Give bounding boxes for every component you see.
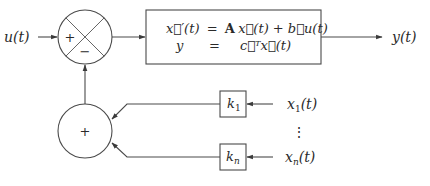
gain-block-kn: kn xyxy=(220,144,246,170)
plant-block: x⃗′(t) = A x⃗(t) + b⃗u(t) y = c⃗ᵀx⃗(t) xyxy=(146,10,328,64)
summing-junction-top: + − xyxy=(58,10,112,64)
output-label: y(t) xyxy=(391,29,416,45)
output-equation-rhs: c⃗ᵀx⃗(t) xyxy=(240,38,291,53)
output-equation-lhs: y xyxy=(175,38,184,53)
input-label: u(t) xyxy=(4,29,30,45)
summing-junction-bottom: + xyxy=(58,104,112,158)
output-equation-eq: = xyxy=(209,38,220,53)
state-equation: x⃗′(t) = A x⃗(t) + b⃗u(t) xyxy=(166,21,328,36)
gain-label-kn: kn xyxy=(226,149,240,166)
block-diagram: u(t) + − x⃗′(t) = A x⃗(t) + b⃗u(t) y = c… xyxy=(0,0,430,186)
state-label-x1: x1(t) xyxy=(287,96,317,114)
minus-sign: − xyxy=(80,44,91,59)
gain-label-k1: k1 xyxy=(227,96,241,113)
plus-sign: + xyxy=(65,30,76,45)
plus-sign: + xyxy=(80,124,91,139)
gain-block-k1: k1 xyxy=(220,91,246,117)
ellipsis: ⋮ xyxy=(292,124,306,140)
state-label-xn: xn(t) xyxy=(285,149,315,167)
kn-to-junction-arrow xyxy=(112,143,220,157)
k1-to-junction-arrow xyxy=(112,104,220,119)
